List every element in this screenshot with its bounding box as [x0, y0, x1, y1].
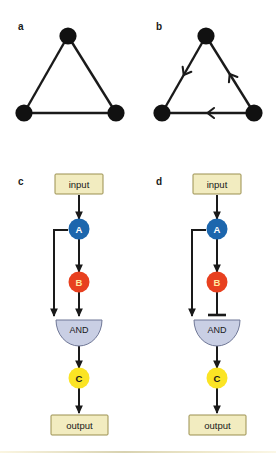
panel-b-nodes — [153, 27, 262, 121]
panel-d-label: d — [156, 177, 162, 187]
panel-a: a — [0, 0, 138, 160]
node-b-label: B — [214, 277, 221, 288]
node-a-label: A — [76, 224, 83, 235]
panel-d-circuit-svg: input AND A B C output — [138, 168, 276, 458]
panel-c: c input — [0, 168, 138, 458]
input-box: input — [55, 174, 103, 194]
node-b: B — [207, 272, 228, 293]
output-box-label: output — [66, 420, 93, 431]
input-box-label: input — [207, 179, 228, 190]
and-gate-label: AND — [207, 325, 227, 335]
and-gate: AND — [194, 320, 240, 346]
panel-d: d input — [138, 168, 276, 458]
graph-node-bottom-left — [153, 104, 170, 121]
input-box: input — [193, 174, 241, 194]
footer-divider-rule — [0, 451, 276, 453]
input-box-label: input — [69, 179, 90, 190]
panel-a-edges — [24, 36, 116, 113]
panel-a-nodes — [15, 27, 124, 121]
connector-a-to-gate-bypass — [192, 230, 206, 316]
edge-top-bottomright — [68, 36, 116, 113]
and-gate: AND — [56, 320, 102, 346]
panel-b-arrowheads — [179, 67, 237, 118]
output-box: output — [189, 415, 246, 435]
graph-node-top — [197, 27, 214, 44]
graph-node-bottom-right — [245, 104, 262, 121]
node-a-label: A — [214, 224, 221, 235]
node-b: B — [69, 272, 90, 293]
graph-node-bottom-right — [107, 104, 124, 121]
node-b-label: B — [76, 277, 83, 288]
node-c-label: C — [214, 373, 221, 384]
connector-a-to-gate-bypass — [54, 230, 68, 316]
edge-top-bottomleft — [24, 36, 68, 113]
output-box: output — [51, 415, 108, 435]
figure-panel-container: a b — [0, 0, 276, 461]
panel-a-label: a — [18, 22, 24, 32]
node-a: A — [69, 219, 90, 240]
panel-b: b — [138, 0, 276, 160]
and-gate-label: AND — [69, 325, 89, 335]
output-box-label: output — [204, 420, 231, 431]
node-c-label: C — [76, 373, 83, 384]
graph-node-top — [59, 27, 76, 44]
node-a: A — [207, 219, 228, 240]
panel-b-edges — [162, 36, 254, 113]
panel-b-label: b — [156, 22, 162, 32]
graph-node-bottom-left — [15, 104, 32, 121]
panel-c-circuit-svg: input AND A B C — [0, 168, 138, 458]
node-c: C — [69, 368, 90, 389]
node-c: C — [207, 368, 228, 389]
panel-c-label: c — [18, 177, 24, 187]
